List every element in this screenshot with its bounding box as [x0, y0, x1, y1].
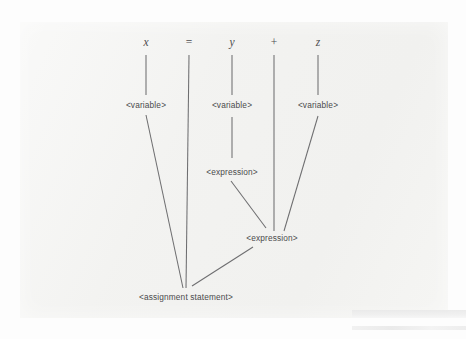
terminal-symbol-t-z: z — [316, 36, 320, 48]
nonterminal-node-n-var-x: <variable> — [126, 100, 166, 110]
scanned-page-figure: x=y+z<variable><variable><variable><expr… — [0, 0, 466, 339]
tree-edge-e-varz-expr — [284, 116, 318, 231]
tree-edge-e-expr-assign — [192, 247, 253, 286]
tree-edge-e-varx-assign — [146, 115, 183, 288]
terminal-symbol-t-x: x — [143, 36, 148, 48]
nonterminal-node-n-var-y: <variable> — [212, 100, 252, 110]
nonterminal-node-n-expr-low: <expression> — [246, 233, 298, 243]
terminal-symbol-t-plus: + — [271, 36, 278, 48]
nonterminal-node-n-assign: <assignment statement> — [139, 292, 233, 302]
nonterminal-node-n-expr-up: <expression> — [206, 167, 258, 177]
terminal-symbol-t-eq: = — [186, 36, 193, 48]
terminal-symbol-t-y: y — [229, 36, 234, 48]
tree-edge-e-eq-long — [186, 55, 189, 288]
tree-edge-e-expr-expr — [231, 181, 266, 228]
nonterminal-node-n-var-z: <variable> — [298, 100, 338, 110]
